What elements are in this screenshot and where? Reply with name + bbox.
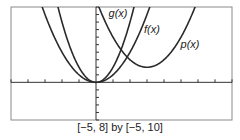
label-gx: g(x) xyxy=(109,7,128,19)
graphing-window: f(x)g(x)p(x) xyxy=(0,0,240,140)
viewing-window-frame xyxy=(11,7,232,120)
window-range-caption: [−5, 8] by [−5, 10] xyxy=(0,121,240,133)
label-fx: f(x) xyxy=(144,23,160,35)
label-px: p(x) xyxy=(180,38,200,50)
